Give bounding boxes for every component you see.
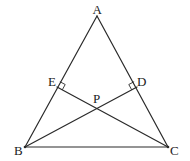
vertex-c-dot — [167, 146, 170, 149]
label-e: E — [48, 74, 56, 89]
triangle-diagram: A E D P B C — [0, 0, 190, 161]
label-a: A — [93, 2, 103, 17]
label-c: C — [170, 143, 179, 158]
label-b: B — [14, 143, 23, 158]
label-d: D — [137, 74, 146, 89]
vertex-b-dot — [24, 146, 27, 149]
label-p: P — [93, 91, 100, 106]
